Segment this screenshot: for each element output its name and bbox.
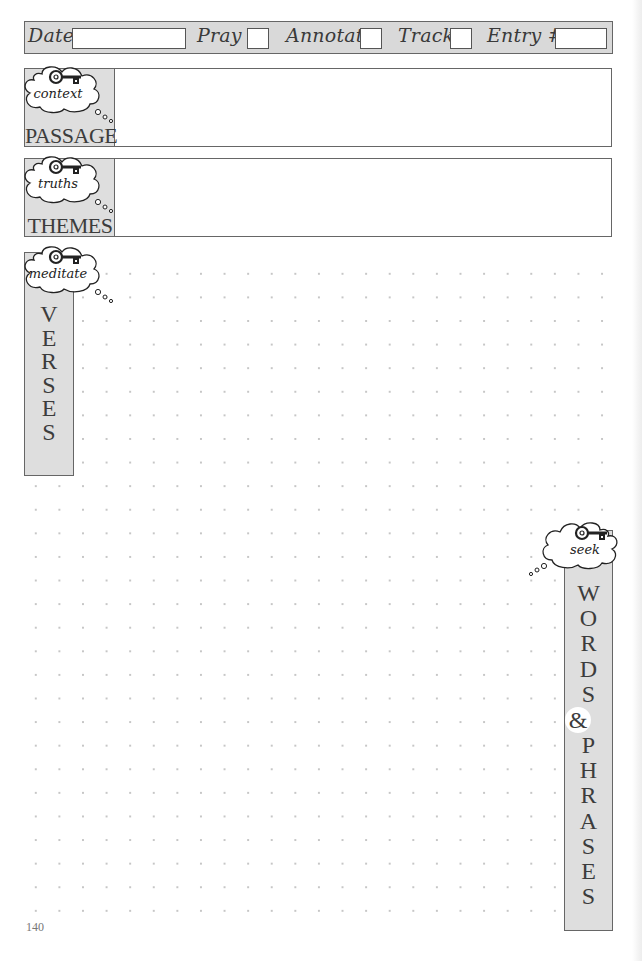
pray-checkbox[interactable] (247, 28, 269, 49)
verses-letter: S (25, 374, 73, 398)
verses-title: V E R S E S (25, 303, 73, 445)
verses-letter: R (25, 350, 73, 374)
dot-grid (24, 262, 615, 932)
phrases-letter: P (565, 733, 612, 758)
date-label: Date (28, 24, 74, 46)
entry-number-field[interactable] (555, 28, 607, 49)
verses-letter: V (25, 303, 73, 327)
phrases-letter: H (565, 758, 612, 783)
track-checkbox[interactable] (450, 28, 472, 49)
phrases-letter: S (565, 834, 612, 859)
themes-input-area[interactable] (115, 159, 611, 236)
cloud-word-seek: seek (550, 542, 620, 557)
cloud-word-meditate: meditate (20, 266, 96, 281)
entry-number-label: Entry # (487, 24, 564, 46)
words-letter: D (565, 657, 612, 682)
date-field[interactable] (72, 28, 186, 49)
phrases-letter: A (565, 809, 612, 834)
words-letter: S (565, 682, 612, 707)
page-edge-shade (632, 0, 642, 961)
cloud-word-truths: truths (20, 176, 96, 191)
track-label: Track (398, 24, 454, 46)
phrases-letter: R (565, 783, 612, 808)
words-phrases-title: W O R D S & P H R A S E S (565, 581, 612, 909)
header-bar: Date Pray Annotate Track Entry # (24, 21, 613, 54)
passage-input-area[interactable] (115, 69, 611, 146)
ampersand-bubble: & (565, 707, 591, 733)
phrases-letter: S (565, 884, 612, 909)
verses-letter: S (25, 421, 73, 445)
seek-cloud: seek (522, 512, 622, 570)
pray-label: Pray (197, 24, 242, 46)
words-letter: W (565, 581, 612, 606)
annotate-checkbox[interactable] (360, 28, 382, 49)
cloud-word-context: context (20, 86, 96, 101)
words-letter: R (565, 631, 612, 656)
context-cloud: context (20, 56, 108, 114)
verses-letter: E (25, 397, 73, 421)
words-letter: O (565, 606, 612, 631)
meditate-cloud: meditate (20, 236, 108, 294)
truths-cloud: truths (20, 146, 108, 204)
phrases-letter: E (565, 859, 612, 884)
verses-letter: E (25, 327, 73, 351)
page-number: 140 (26, 920, 44, 935)
words-phrases-panel: W O R D S & P H R A S E S (564, 530, 613, 931)
